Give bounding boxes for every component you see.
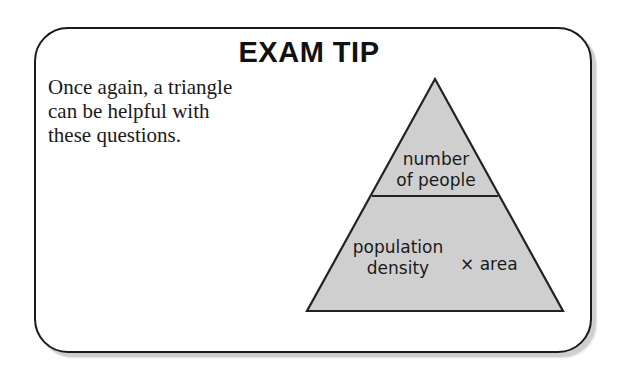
- population-density-line-1: population: [348, 237, 448, 258]
- triangle-bottom-left-label: population density: [348, 237, 448, 279]
- area-label: area: [480, 254, 518, 274]
- multiply-symbol: ×: [460, 254, 474, 274]
- number-of-people-line-1: number: [386, 149, 486, 170]
- formula-triangle-diagram: [0, 0, 618, 365]
- population-density-line-2: density: [348, 258, 448, 279]
- triangle-bottom-right-label: × area: [460, 254, 518, 275]
- number-of-people-line-2: of people: [386, 170, 486, 191]
- triangle-top-label: number of people: [386, 149, 486, 191]
